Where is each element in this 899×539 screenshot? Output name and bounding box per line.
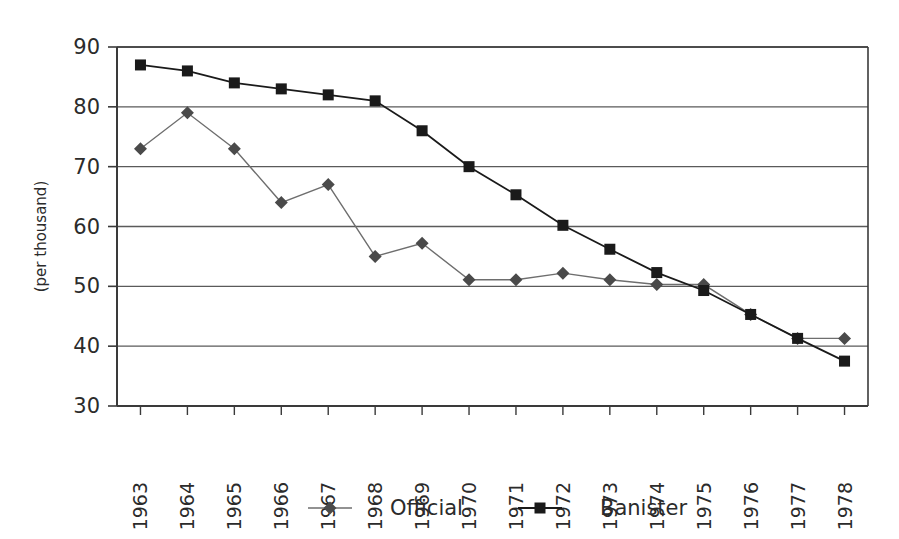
x-tick-label: 1966: [270, 482, 292, 530]
y-tick-label: 30: [73, 394, 100, 418]
y-tick-label: 70: [73, 155, 100, 179]
data-point-marker: [792, 333, 803, 344]
legend-label: Banister: [600, 496, 688, 520]
data-point-marker: [839, 356, 850, 367]
x-tick-label: 1971: [505, 482, 527, 530]
data-point-marker: [604, 244, 615, 255]
data-point-marker: [745, 309, 756, 320]
y-tick-label: 80: [73, 95, 100, 119]
data-point-marker: [510, 189, 521, 200]
x-tick-label: 1977: [787, 482, 809, 530]
data-point-marker: [276, 83, 287, 94]
y-axis-label: (per thousand): [32, 181, 50, 293]
x-tick-label: 1978: [834, 482, 856, 530]
x-tick-label: 1964: [176, 482, 198, 530]
data-point-marker: [417, 125, 428, 136]
data-point-marker: [464, 161, 475, 172]
data-point-marker: [135, 59, 146, 70]
x-tick-label: 1965: [223, 482, 245, 530]
data-point-marker: [651, 267, 662, 278]
data-point-marker: [229, 77, 240, 88]
legend-marker-square: [535, 503, 546, 514]
chart-canvas: 30405060708090 1963196419651966196719681…: [0, 0, 899, 539]
x-tick-label: 1968: [364, 482, 386, 530]
data-point-marker: [182, 65, 193, 76]
x-tick-label: 1963: [129, 482, 151, 530]
data-point-marker: [323, 89, 334, 100]
x-tick-label: 1972: [552, 482, 574, 530]
x-tick-label: 1975: [693, 482, 715, 530]
y-tick-label: 90: [73, 35, 100, 59]
y-tick-label: 60: [73, 215, 100, 239]
line-chart: 30405060708090 1963196419651966196719681…: [0, 0, 899, 539]
data-point-marker: [698, 285, 709, 296]
chart-background: [0, 0, 899, 539]
y-tick-label: 50: [73, 274, 100, 298]
x-tick-label: 1976: [740, 482, 762, 530]
legend-label: Official: [390, 496, 463, 520]
y-tick-label: 40: [73, 334, 100, 358]
data-point-marker: [557, 220, 568, 231]
data-point-marker: [370, 95, 381, 106]
